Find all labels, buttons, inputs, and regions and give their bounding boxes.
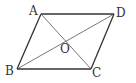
edge-ba — [17, 14, 41, 69]
diagram-svg: A D B C O — [0, 0, 136, 83]
label-b: B — [5, 64, 14, 78]
label-a: A — [28, 4, 38, 18]
label-d: D — [116, 6, 126, 20]
label-o: O — [60, 42, 70, 56]
edge-dc — [91, 14, 114, 69]
parallelogram-diagram: A D B C O — [0, 0, 136, 83]
label-c: C — [92, 66, 101, 80]
